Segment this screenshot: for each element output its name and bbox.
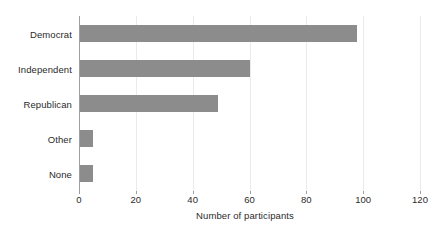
bar-row <box>79 121 93 156</box>
gridline <box>363 16 364 191</box>
x-axis-tick-labels: 020406080100120 <box>0 191 448 207</box>
plot-area <box>79 16 420 191</box>
x-axis-tick-label: 100 <box>355 194 371 205</box>
x-axis-tick-label: 20 <box>131 194 142 205</box>
y-axis-tick-label: Independent <box>0 63 72 74</box>
bar-row <box>79 51 250 86</box>
y-axis-tick-label: None <box>0 168 72 179</box>
bar <box>79 130 93 147</box>
x-axis-tick-label: 120 <box>412 194 428 205</box>
x-axis-tick-label: 40 <box>187 194 198 205</box>
y-axis-tick-label: Democrat <box>0 28 72 39</box>
y-axis-line <box>79 16 80 191</box>
x-axis-tick-label: 80 <box>301 194 312 205</box>
bar <box>79 25 357 42</box>
y-axis-tick-labels: DemocratIndependentRepublicanOtherNone <box>0 16 72 191</box>
gridline <box>420 16 421 191</box>
bar <box>79 60 250 77</box>
bar-row <box>79 86 218 121</box>
bar-row <box>79 156 93 191</box>
bar <box>79 95 218 112</box>
bar-chart: DemocratIndependentRepublicanOtherNone 0… <box>0 0 448 234</box>
y-axis-tick-label: Republican <box>0 98 72 109</box>
x-axis-title-text: Number of participants <box>196 210 294 221</box>
x-axis-tick-label: 0 <box>76 194 81 205</box>
x-axis-tick-label: 60 <box>244 194 255 205</box>
bar <box>79 165 93 182</box>
x-axis-title: Number of participants <box>0 210 448 221</box>
bar-row <box>79 16 357 51</box>
y-axis-tick-label: Other <box>0 133 72 144</box>
